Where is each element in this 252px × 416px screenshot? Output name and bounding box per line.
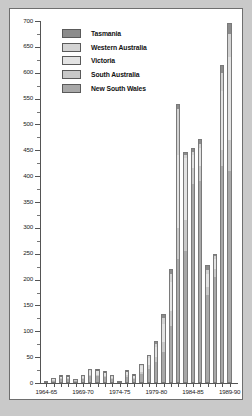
bar-segment	[205, 265, 210, 270]
bar-segment	[220, 65, 225, 73]
bar-segment	[183, 152, 188, 155]
legend-item[interactable]: Tasmania	[62, 27, 192, 41]
bar-segment	[220, 150, 225, 166]
bar-segment	[169, 326, 174, 383]
bar-segment	[213, 277, 218, 383]
bar-segment	[132, 379, 137, 383]
bar-segment	[132, 378, 137, 379]
figure-background: 0501001502002503003504004505005506006507…	[0, 0, 252, 416]
x-tick	[142, 383, 143, 387]
x-tick	[68, 383, 69, 387]
bar-segment	[117, 381, 122, 382]
y-tick-label: 200	[10, 275, 33, 282]
x-tick	[46, 383, 47, 387]
bar-segment	[88, 369, 93, 370]
bar-segment	[183, 251, 188, 383]
x-tick	[171, 383, 172, 387]
bar-segment	[125, 371, 130, 372]
legend-item-label: Tasmania	[91, 30, 121, 37]
bar-segment	[110, 378, 115, 379]
bar-segment	[59, 376, 64, 377]
x-tick-label: 1969-70	[63, 388, 103, 395]
legend-item[interactable]: Victoria	[62, 54, 192, 68]
plot-area: 0501001502002503003504004505005506006507…	[10, 9, 242, 399]
legend-item[interactable]: Western Australia	[62, 41, 192, 55]
bar-segment	[213, 256, 218, 259]
legend-item[interactable]: New South Wales	[62, 81, 192, 95]
bar-segment	[66, 375, 71, 376]
bar-segment	[227, 23, 232, 34]
bar-segment	[44, 381, 49, 382]
bar-segment	[154, 347, 159, 357]
bar-segment	[161, 314, 166, 318]
legend-item[interactable]: South Australia	[62, 68, 192, 82]
bar-segment	[154, 357, 159, 362]
x-tick-label: 1979-80	[136, 388, 176, 395]
bar-segment	[88, 376, 93, 383]
bar-segment	[66, 378, 71, 379]
bar-segment	[103, 377, 108, 383]
bar-segment	[103, 376, 108, 377]
bar-segment	[110, 376, 115, 378]
x-tick	[178, 383, 179, 387]
x-tick	[76, 383, 77, 387]
bar-segment	[176, 259, 181, 383]
x-tick	[98, 383, 99, 387]
x-tick	[208, 383, 209, 387]
y-tick	[35, 383, 40, 384]
y-tick-label: 550	[10, 94, 33, 101]
bar-segment	[191, 155, 196, 168]
bar-segment	[147, 355, 152, 357]
legend-swatch-icon	[62, 84, 81, 93]
x-tick	[105, 383, 106, 387]
x-tick	[164, 383, 165, 387]
bar-segment	[147, 365, 152, 368]
x-tick	[149, 383, 150, 387]
bar-segment	[161, 342, 166, 352]
bar-segment	[198, 166, 203, 182]
bar-segment	[147, 356, 152, 358]
bar-segment	[154, 344, 159, 347]
bar-segment	[220, 73, 225, 91]
bar-segment	[176, 109, 181, 156]
y-tick-label: 400	[10, 172, 33, 179]
bar-segment	[183, 220, 188, 251]
bar-segment	[88, 370, 93, 371]
x-tick	[200, 383, 201, 387]
y-tick-label: 650	[10, 42, 33, 49]
bar-segment	[139, 364, 144, 365]
legend-item-label: Victoria	[91, 57, 115, 64]
bar-segment	[154, 341, 159, 344]
bar-segment	[169, 269, 174, 274]
bar-segment	[103, 372, 108, 373]
x-tick	[127, 383, 128, 387]
bar-segment	[110, 379, 115, 383]
y-tick-label: 600	[10, 68, 33, 75]
bar-segment	[59, 375, 64, 376]
x-tick	[156, 383, 157, 387]
bar-segment	[191, 152, 196, 155]
bar-segment	[95, 369, 100, 370]
x-tick-label: 1989-90	[210, 388, 250, 395]
x-tick	[222, 383, 223, 387]
bar-segment	[205, 295, 210, 383]
bar-segment	[161, 318, 166, 324]
bar-segment	[169, 311, 174, 327]
bar-segment	[51, 379, 56, 380]
bar-segment	[191, 168, 196, 184]
bar-segment	[95, 375, 100, 377]
bar-segment	[183, 158, 188, 220]
legend-swatch-icon	[62, 70, 81, 79]
bar-segment	[81, 376, 86, 377]
chart-panel: 0501001502002503003504004505005506006507…	[9, 8, 243, 400]
y-tick-label: 450	[10, 146, 33, 153]
bar-segment	[88, 375, 93, 376]
bar-segment	[73, 379, 78, 380]
legend-swatch-icon	[62, 29, 81, 38]
y-tick-label: 250	[10, 249, 33, 256]
bar-segment	[176, 104, 181, 109]
bar-segment	[176, 155, 181, 227]
bar-segment	[227, 34, 232, 57]
x-tick	[54, 383, 55, 387]
bar-segment	[125, 377, 130, 383]
